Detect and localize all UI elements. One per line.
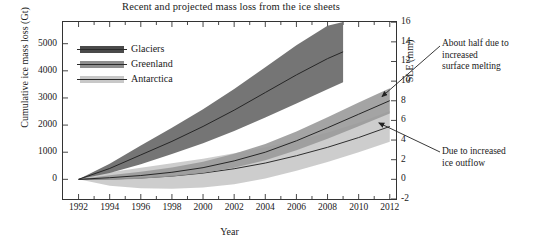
annotation-line: About half due to [442,38,533,50]
legend-item-label: Glaciers [131,44,164,54]
x-tick-label: 1994 [93,203,127,213]
y-tick-label: 3000 [22,93,57,103]
chart-legend: GlaciersGreenlandAntarctica [80,43,173,88]
y2-tick-label: 2 [401,155,423,165]
x-tick-label: 2012 [373,203,407,213]
x-tick-label: 2004 [248,203,282,213]
legend-swatch-icon [80,76,124,83]
x-tick-label: 1996 [124,203,158,213]
y-tick-label: 2000 [22,120,57,130]
legend-item-label: Greenland [131,59,173,69]
y2-tick-label: 14 [401,37,423,47]
annotation-ice-outflow: Due to increasedice outflow [442,146,533,169]
x-tick-label: 2006 [279,203,313,213]
y2-tick-label: 6 [401,115,423,125]
y-tick-label: 5000 [22,39,57,49]
legend-item[interactable]: Greenland [80,58,173,70]
x-tick-label: 2010 [342,203,376,213]
y2-tick-label: 0 [401,174,423,184]
chart-figure: Recent and projected mass loss from the … [0,0,533,247]
annotation-line: ice outflow [442,158,533,170]
annotation-line: Due to increased [442,146,533,158]
x-tick-label: 2000 [186,203,220,213]
y2-tick-label: 4 [401,135,423,145]
annotation-line: increased [442,50,533,62]
legend-swatch-icon [80,61,124,68]
legend-item[interactable]: Antarctica [80,73,173,85]
y-tick-label: 4000 [22,66,57,76]
x-tick-label: 1992 [62,203,96,213]
x-tick-label: 2008 [311,203,345,213]
legend-item[interactable]: Glaciers [80,43,173,55]
y2-tick-label: 12 [401,56,423,66]
y-tick-label: 1000 [22,147,57,157]
legend-swatch-icon [80,46,124,53]
y2-tick-label: 10 [401,76,423,86]
x-axis-label: Year [62,226,397,237]
chart-title: Recent and projected mass loss from the … [0,1,462,12]
x-tick-label: 2002 [217,203,251,213]
annotation-surface-melting: About half due toincreasedsurface meltin… [442,38,533,73]
y2-tick-label: 16 [401,17,423,27]
legend-item-label: Antarctica [131,74,173,84]
annotation-line: surface melting [442,61,533,73]
y-tick-label: 0 [22,174,57,184]
x-tick-label: 1998 [155,203,189,213]
y2-tick-label: 8 [401,96,423,106]
